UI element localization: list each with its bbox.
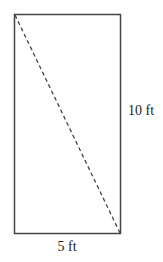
diagonal-dashed-line	[15, 15, 120, 233]
rectangle-diagram: 10 ft 5 ft	[0, 0, 163, 262]
width-label: 5 ft	[57, 239, 76, 254]
height-label: 10 ft	[128, 103, 154, 118]
